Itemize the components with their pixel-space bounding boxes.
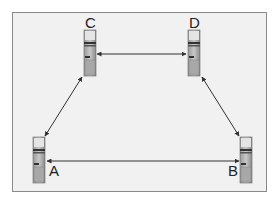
- node-label-d: D: [189, 15, 200, 30]
- computer-tower-icon: [188, 30, 200, 76]
- node-label-c: C: [85, 15, 96, 30]
- computer-tower-icon: [84, 30, 96, 76]
- computer-tower-icon: [240, 137, 252, 183]
- node-label-a: A: [49, 163, 59, 178]
- edge-c-a: [45, 77, 82, 136]
- edge-d-b: [202, 77, 239, 136]
- node-label-b: B: [228, 163, 238, 178]
- computer-tower-icon: [33, 137, 45, 183]
